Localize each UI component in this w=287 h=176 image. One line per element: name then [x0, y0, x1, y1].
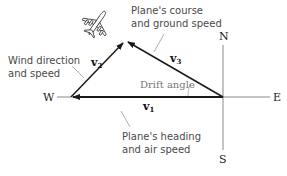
- course-label: Plane's course and ground speed: [131, 5, 222, 29]
- heading-label: Plane's heading and air speed: [122, 131, 204, 155]
- vector-v2-label: v2: [90, 56, 102, 70]
- south-label: S: [219, 153, 227, 166]
- wind-label: Wind direction and speed: [8, 55, 83, 79]
- vector-v1-label: v1: [142, 100, 154, 114]
- heading-leader-line: [121, 111, 130, 127]
- north-label: N: [219, 30, 229, 43]
- vector-v3-label: v3: [169, 52, 181, 66]
- wind-leader-line: [72, 66, 84, 78]
- vector-v2: [71, 43, 123, 97]
- course-leader-line: [154, 34, 164, 52]
- vector-diagram: N S E W v1 v2 v3 Drift angle Wind direct…: [0, 0, 287, 176]
- west-label: W: [43, 91, 55, 104]
- drift-angle-label: Drift angle: [140, 79, 195, 90]
- airplane-icon: [78, 4, 117, 43]
- east-label: E: [273, 91, 281, 104]
